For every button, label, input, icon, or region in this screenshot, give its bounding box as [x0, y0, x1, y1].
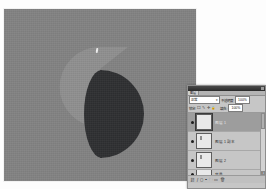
dark-half-disc-shape: [100, 70, 144, 158]
panel-footer-toolbar: ⛓ ƒ ◻ ◓ 🗀 ▭ 🗑: [188, 175, 265, 183]
layer-thumbnail[interactable]: [196, 152, 212, 168]
eye-icon[interactable]: [189, 159, 195, 162]
document-canvas[interactable]: [4, 9, 196, 181]
blend-mode-value: 正常: [191, 97, 197, 103]
fill-label: 填充:: [220, 106, 227, 111]
delete-layer-button[interactable]: 🗑: [220, 176, 225, 183]
fill-input[interactable]: 100%: [228, 104, 243, 112]
lock-transparency-icon[interactable]: ☐: [197, 105, 201, 111]
layer-thumbnail[interactable]: [196, 170, 212, 175]
layer-name: 图层 2: [213, 158, 226, 163]
eye-icon[interactable]: [189, 140, 195, 143]
layer-name: 背景: [213, 172, 223, 175]
scroll-down-icon[interactable]: ▾: [261, 171, 265, 175]
layer-list-scrollbar[interactable]: ▴ ▾: [260, 113, 265, 175]
layer-thumbnail[interactable]: [196, 114, 212, 130]
lock-row: 锁定: ☐ ✎ ✛ 🔒 填充: 100%: [188, 104, 265, 112]
scrollbar-thumb[interactable]: [261, 113, 265, 129]
layer-row[interactable]: 背景: [188, 170, 265, 175]
layer-name: 图层 1: [213, 120, 226, 125]
blend-mode-select[interactable]: 正常 ▾: [189, 96, 220, 104]
new-group-button[interactable]: 🗀: [209, 176, 213, 183]
layer-mask-button[interactable]: ◻: [200, 176, 203, 183]
new-layer-button[interactable]: ▭: [214, 176, 218, 183]
new-fill-layer-button[interactable]: ◓: [205, 176, 207, 183]
layer-row[interactable]: 图层 1: [188, 113, 265, 132]
lock-image-icon[interactable]: ✎: [202, 105, 205, 111]
light-half-disc-wedge: [100, 47, 128, 69]
blend-mode-row: 正常 ▾ 不透明度: 100%: [188, 96, 265, 104]
layer-row[interactable]: 图层 1 副本: [188, 132, 265, 151]
chevron-down-icon: ▾: [216, 97, 218, 103]
panel-titlebar[interactable]: [188, 86, 265, 91]
lock-position-icon[interactable]: ✛: [207, 105, 210, 111]
lock-label: 锁定:: [189, 106, 196, 111]
eye-icon[interactable]: [189, 121, 195, 124]
layer-style-button[interactable]: ƒ: [197, 176, 199, 183]
lock-icon-group: ☐ ✎ ✛ 🔒: [197, 105, 216, 111]
shape-group: [60, 42, 140, 160]
layer-list[interactable]: 图层 1 图层 1 副本 图层 2 背景 ▴ ▾: [188, 112, 265, 175]
layer-name: 图层 1 副本: [213, 139, 235, 144]
layers-panel[interactable]: 图层 正常 ▾ 不透明度: 100% 锁定: ☐ ✎ ✛ 🔒 填充: 100% …: [187, 85, 266, 189]
layer-row[interactable]: 图层 2: [188, 151, 265, 170]
opacity-label: 不透明度:: [221, 98, 234, 103]
opacity-input[interactable]: 100%: [235, 96, 250, 104]
eye-icon[interactable]: [189, 173, 195, 175]
link-layers-button[interactable]: ⛓: [190, 176, 195, 183]
close-icon[interactable]: [261, 87, 264, 90]
layer-thumbnail[interactable]: [196, 133, 212, 149]
lock-all-icon[interactable]: 🔒: [211, 105, 215, 111]
tab-layers[interactable]: 图层: [188, 91, 199, 95]
